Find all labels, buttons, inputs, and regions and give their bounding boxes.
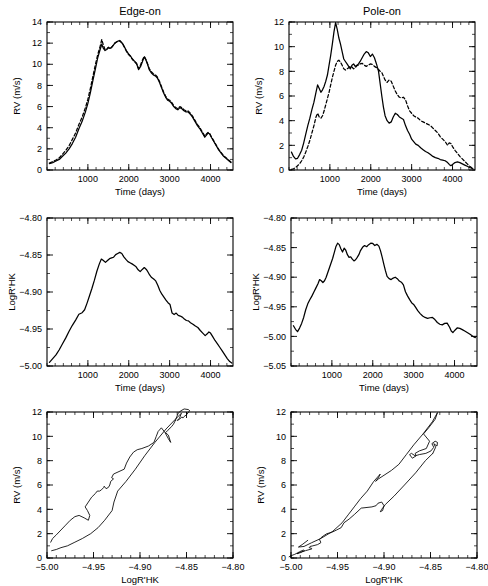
x-tick-label: 2000 (361, 174, 381, 184)
x-tick-label: −4.80 (466, 562, 488, 572)
y-tick-label: 2 (37, 529, 42, 539)
figure-canvas: Edge-on100020003000400002468101214Time (… (0, 0, 488, 586)
y-tick-label: 12 (32, 407, 42, 417)
data-curve-falling-branch (51, 421, 176, 543)
x-tick-label: 3000 (160, 174, 180, 184)
panel-title: Pole-on (363, 5, 401, 17)
x-tick-label: 1000 (78, 174, 98, 184)
plot-panel-logrhk-time-edge-on: 1000200030004000−5.00−4.95−4.90−4.85−4.8… (0, 196, 244, 392)
y-tick-label: 12 (32, 38, 42, 48)
x-tick-label: −4.95 (326, 562, 349, 572)
y-axis-label: RV (m/s) (255, 466, 266, 503)
x-tick-label: −4.85 (175, 562, 198, 572)
y-tick-label: 0 (281, 553, 286, 563)
x-tick-label: 3000 (402, 174, 422, 184)
y-tick-label: 0 (37, 165, 42, 175)
data-curve-dashed (291, 60, 473, 169)
plot-panel-rv-vs-logrhk-pole-on: −5.00−4.95−4.90−4.85−4.80024681012LogR'H… (244, 392, 488, 586)
y-tick-label: −4.80 (263, 213, 286, 223)
x-tick-label: 2000 (119, 174, 139, 184)
data-curve-solid (49, 41, 231, 164)
x-tick-label: 4000 (201, 174, 221, 184)
y-tick-label: 4 (281, 505, 286, 515)
x-tick-label: 1000 (322, 370, 342, 380)
y-tick-label: −5.05 (263, 361, 286, 371)
data-curve-dashed (49, 39, 231, 163)
y-tick-label: −4.90 (263, 272, 286, 282)
x-tick-label: 1000 (320, 174, 340, 184)
y-tick-label: 12 (274, 17, 284, 27)
y-axis-label: RV (m/s) (11, 466, 22, 503)
y-tick-label: 6 (37, 480, 42, 490)
y-tick-label: 14 (32, 17, 42, 27)
plot-frame (291, 218, 477, 366)
y-tick-label: 4 (37, 505, 42, 515)
y-tick-label: 0 (279, 165, 284, 175)
plot-panel-rv-time-edge-on: Edge-on100020003000400002468101214Time (… (0, 0, 244, 196)
data-curve-rising-branch (52, 409, 190, 551)
y-tick-label: 2 (281, 529, 286, 539)
panel-title: Edge-on (119, 5, 161, 17)
data-curve-solid (291, 23, 473, 169)
x-tick-label: 1000 (78, 370, 98, 380)
y-tick-label: 10 (276, 432, 286, 442)
x-tick-label: 4000 (443, 174, 463, 184)
x-tick-label: 4000 (201, 370, 221, 380)
plot-frame (47, 218, 233, 366)
plot-panel-rv-vs-logrhk-edge-on: −5.00−4.95−4.90−4.85−4.80024681012LogR'H… (0, 392, 244, 586)
x-tick-label: 4000 (445, 370, 465, 380)
x-tick-label: −4.90 (129, 562, 152, 572)
plot-panel-rv-time-pole-on: Pole-on1000200030004000024681012Time (da… (244, 0, 488, 196)
x-tick-label: −4.90 (373, 562, 396, 572)
plot-frame (47, 22, 233, 170)
data-curve-rising-branch (298, 413, 437, 547)
y-tick-label: 2 (37, 144, 42, 154)
y-tick-label: 8 (37, 81, 42, 91)
y-tick-label: 4 (37, 123, 42, 133)
y-tick-label: 8 (281, 456, 286, 466)
x-tick-label: −4.80 (222, 562, 245, 572)
y-axis-label: RV (m/s) (253, 77, 264, 114)
y-tick-label: −4.95 (19, 324, 42, 334)
x-tick-label: −5.00 (36, 562, 59, 572)
plot-frame (47, 412, 233, 558)
y-axis-label: LogR'HK (6, 272, 17, 310)
x-tick-label: 3000 (404, 370, 424, 380)
x-tick-label: 2000 (363, 370, 383, 380)
x-tick-label: 2000 (119, 370, 139, 380)
y-tick-label: −4.80 (19, 213, 42, 223)
y-tick-label: 4 (279, 116, 284, 126)
y-tick-label: −4.85 (263, 243, 286, 253)
plot-frame (291, 412, 477, 558)
plot-panel-logrhk-time-pole-on: 1000200030004000−5.05−5.00−4.95−4.90−4.8… (244, 196, 488, 392)
x-axis-label: LogR'HK (121, 574, 159, 585)
x-tick-label: −5.00 (280, 562, 303, 572)
y-tick-label: −4.90 (19, 287, 42, 297)
data-curve-logrhk (49, 252, 231, 363)
y-axis-label: LogR'HK (250, 272, 261, 310)
y-tick-label: 8 (37, 456, 42, 466)
x-tick-label: −4.85 (419, 562, 442, 572)
y-axis-label: RV (m/s) (11, 77, 22, 114)
y-tick-label: −5.00 (263, 332, 286, 342)
y-tick-label: 12 (276, 407, 286, 417)
y-tick-label: −5.00 (19, 361, 42, 371)
x-tick-label: 3000 (160, 370, 180, 380)
y-tick-label: 0 (37, 553, 42, 563)
y-tick-label: 10 (274, 42, 284, 52)
y-tick-label: 10 (32, 432, 42, 442)
x-tick-label: −4.95 (82, 562, 105, 572)
data-curve-logrhk (293, 243, 475, 337)
y-tick-label: −4.95 (263, 302, 286, 312)
x-axis-label: LogR'HK (365, 574, 403, 585)
y-tick-label: 6 (37, 102, 42, 112)
data-curve-falling-branch (289, 453, 433, 556)
y-tick-label: −4.85 (19, 250, 42, 260)
y-tick-label: 10 (32, 59, 42, 69)
y-tick-label: 6 (279, 91, 284, 101)
y-tick-label: 8 (279, 67, 284, 77)
y-tick-label: 6 (281, 480, 286, 490)
y-tick-label: 2 (279, 141, 284, 151)
